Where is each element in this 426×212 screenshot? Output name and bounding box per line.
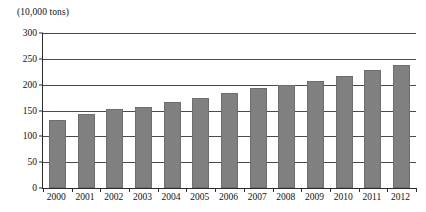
bar-slot: [215, 33, 244, 188]
x-tick-label: 2008: [272, 191, 301, 203]
bar: [164, 102, 181, 188]
x-tick-label: 2005: [185, 191, 214, 203]
bar: [336, 76, 353, 188]
x-tick-label: 2007: [243, 191, 272, 203]
y-tick-label: 150: [23, 106, 37, 116]
y-tick-label: 100: [23, 131, 37, 141]
bars-container: [43, 33, 416, 188]
bar: [250, 88, 267, 188]
y-tick-label: 50: [28, 157, 38, 167]
x-tick-mark: [416, 188, 417, 192]
bar-slot: [158, 33, 187, 188]
bar-slot: [72, 33, 101, 188]
plot-area: 050100150200250300: [42, 33, 416, 189]
x-tick-label: 2000: [42, 191, 71, 203]
y-tick-label: 200: [23, 80, 37, 90]
x-tick-label: 2002: [99, 191, 128, 203]
x-tick-label: 2004: [157, 191, 186, 203]
bar: [221, 93, 238, 188]
bar: [106, 109, 123, 188]
bar: [135, 107, 152, 188]
bar-slot: [129, 33, 158, 188]
y-tick-label: 250: [23, 54, 37, 64]
bar-chart: (10,000 tons) 050100150200250300 2000200…: [0, 0, 426, 212]
bar-slot: [301, 33, 330, 188]
bar-slot: [330, 33, 359, 188]
x-tick-label: 2006: [214, 191, 243, 203]
y-tick-label: 300: [23, 28, 37, 38]
bar-slot: [100, 33, 129, 188]
bar-slot: [244, 33, 273, 188]
x-tick-label: 2010: [329, 191, 358, 203]
x-axis-labels: 2000200120022003200420052006200720082009…: [42, 191, 415, 207]
x-tick-label: 2012: [386, 191, 415, 203]
bar: [307, 81, 324, 188]
bar-slot: [186, 33, 215, 188]
x-tick-label: 2003: [128, 191, 157, 203]
bar: [49, 120, 66, 188]
bar: [78, 114, 95, 188]
bar-slot: [359, 33, 388, 188]
unit-caption: (10,000 tons): [17, 6, 69, 18]
x-tick-label: 2009: [300, 191, 329, 203]
bar: [393, 65, 410, 188]
bar-slot: [273, 33, 302, 188]
x-tick-label: 2001: [71, 191, 100, 203]
y-tick-label: 0: [32, 183, 37, 193]
x-tick-label: 2011: [358, 191, 387, 203]
bar-slot: [387, 33, 416, 188]
bar: [192, 98, 209, 188]
bar: [364, 70, 381, 188]
bar: [278, 85, 295, 188]
bar-slot: [43, 33, 72, 188]
